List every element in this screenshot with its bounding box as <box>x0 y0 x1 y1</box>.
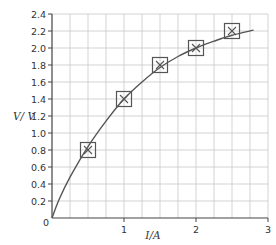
x-tick-label: 3 <box>265 224 271 235</box>
y-axis-label: V/ V <box>13 110 36 122</box>
x-tick-label: 1 <box>121 224 127 235</box>
y-tick-label: 1.0 <box>31 128 46 139</box>
y-tick-label: 2.4 <box>31 9 46 20</box>
chart: 0.20.40.60.81.01.21.41.61.82.02.22.4123 … <box>0 0 276 245</box>
y-tick-label: 0.2 <box>31 196 46 207</box>
y-tick-label: 0.6 <box>31 162 46 173</box>
y-tick-label: 1.6 <box>31 77 46 88</box>
x-tick-label: 2 <box>193 224 199 235</box>
axes <box>48 14 268 222</box>
y-tick-label: 0.8 <box>31 145 46 156</box>
y-tick-label: 1.4 <box>31 94 46 105</box>
grid-lines <box>52 14 268 218</box>
y-tick-label: 1.8 <box>31 60 46 71</box>
x-axis-label: I/A <box>144 229 161 241</box>
y-tick-label: 2.2 <box>31 26 46 37</box>
y-tick-label: 0.4 <box>31 179 46 190</box>
origin-label: 0 <box>43 217 49 228</box>
y-tick-label: 2.0 <box>31 43 46 54</box>
